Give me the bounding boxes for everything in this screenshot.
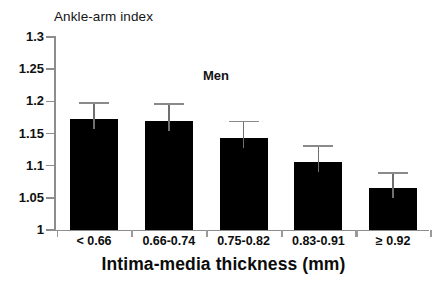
- series-annotation-men: Men: [203, 68, 229, 83]
- x-axis-title: Intima-media thickness (mm): [0, 254, 447, 275]
- bar-chart-figure: Ankle-arm index Men 1.31.251.21.151.11.0…: [0, 0, 447, 283]
- y-axis-tick-labels: 1.31.251.21.151.11.051: [0, 0, 44, 283]
- y-axis-tick-label: 1.1: [0, 159, 44, 172]
- y-axis-line: [54, 36, 56, 231]
- y-axis-tick-label: 1.3: [0, 30, 44, 43]
- y-axis-tick-label: 1: [0, 223, 44, 236]
- bar: [70, 119, 118, 230]
- bar: [294, 162, 342, 230]
- error-bar-stem: [392, 172, 394, 198]
- x-axis-category-label: 0.83-0.91: [278, 234, 358, 248]
- y-axis-tick: [46, 68, 54, 69]
- y-axis-tick: [46, 133, 54, 134]
- y-axis-tick: [46, 101, 54, 102]
- error-bar-cap: [303, 145, 333, 147]
- error-bar-stem: [93, 102, 95, 129]
- y-axis-tick: [46, 197, 54, 198]
- error-bar-cap: [229, 121, 259, 123]
- y-axis-tick-label: 1.25: [0, 62, 44, 75]
- x-axis-category-label: 0.75-0.82: [204, 234, 284, 248]
- y-axis-tick: [46, 229, 54, 230]
- bar: [220, 138, 268, 230]
- error-bar-stem: [243, 121, 245, 148]
- y-axis-tick: [46, 36, 54, 37]
- x-axis-category-label: 0.66-0.74: [129, 234, 209, 248]
- x-axis-category-label: < 0.66: [54, 234, 134, 248]
- y-axis-title: Ankle-arm index: [54, 9, 153, 24]
- error-bar-stem: [318, 145, 320, 172]
- bar: [145, 121, 193, 230]
- y-axis-tick-label: 1.15: [0, 127, 44, 140]
- y-axis-tick: [46, 165, 54, 166]
- y-axis-tick-label: 1.2: [0, 94, 44, 107]
- x-axis-category-label: ≥ 0.92: [353, 234, 433, 248]
- error-bar-stem: [168, 103, 170, 130]
- error-bar-cap: [154, 103, 184, 105]
- error-bar-cap: [79, 102, 109, 104]
- y-axis-tick-label: 1.05: [0, 191, 44, 204]
- error-bar-cap: [378, 172, 408, 174]
